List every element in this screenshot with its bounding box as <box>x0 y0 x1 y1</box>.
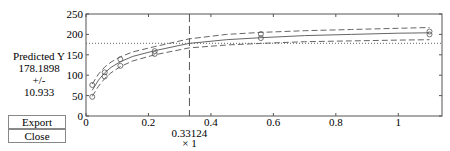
x-tick-label: 0.8 <box>329 116 343 128</box>
observation-marker <box>90 94 95 99</box>
x-tick-label: 0 <box>83 116 89 128</box>
curve-upper <box>92 28 429 85</box>
observation-marker <box>118 63 123 68</box>
y-tick-label: 50 <box>72 90 84 102</box>
prediction-plot[interactable]: 05010015020025000.20.40.60.810.33124× 1 <box>0 0 450 151</box>
y-tick-label: 200 <box>67 28 84 40</box>
x-tick-label: 0.6 <box>266 116 280 128</box>
curve-fit <box>92 33 429 91</box>
x-axis-label: × 1 <box>182 137 196 149</box>
y-tick-label: 250 <box>67 8 84 20</box>
curve-lower <box>92 40 429 97</box>
y-tick-label: 100 <box>67 69 84 81</box>
plot-frame <box>86 14 442 116</box>
x-tick-label: 0.2 <box>142 116 156 128</box>
observation-marker <box>118 57 123 62</box>
y-tick-label: 150 <box>67 49 84 61</box>
x-tick-label: 1 <box>396 116 402 128</box>
